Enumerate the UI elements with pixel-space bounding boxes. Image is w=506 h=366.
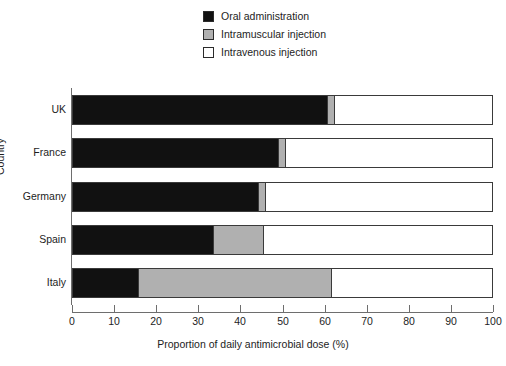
x-tick-mark: [156, 305, 157, 312]
x-tick-label-100: 100: [484, 315, 502, 327]
x-tick-mark: [493, 305, 494, 312]
x-tick-mark: [114, 305, 115, 312]
x-tick-mark: [325, 305, 326, 312]
bar-row: [72, 268, 493, 298]
x-tick-label-10: 10: [108, 315, 120, 327]
x-tick-label-70: 70: [361, 315, 373, 327]
x-axis-title: Proportion of daily antimicrobial dose (…: [0, 338, 506, 350]
x-tick-label-50: 50: [277, 315, 289, 327]
x-tick-label-60: 60: [319, 315, 331, 327]
y-tick-label-france: France: [0, 146, 66, 158]
y-tick-label-uk: UK: [0, 103, 66, 115]
bar-segment: [331, 269, 492, 297]
bar-segment: [73, 183, 258, 211]
bar-segment: [278, 139, 285, 167]
bar-row: [72, 225, 493, 255]
x-tick-label-30: 30: [192, 315, 204, 327]
x-tick-mark: [72, 305, 73, 312]
bar-segment: [263, 226, 492, 254]
legend-label-intravenous-injection: Intravenous injection: [221, 47, 317, 58]
y-tick-label-germany: Germany: [0, 190, 66, 202]
legend-label-oral-administration: Oral administration: [221, 11, 309, 22]
y-tick-label-italy: Italy: [0, 276, 66, 288]
x-tick-label-90: 90: [445, 315, 457, 327]
bar-segment: [73, 269, 138, 297]
x-tick-mark: [240, 305, 241, 312]
bar-segment: [73, 226, 213, 254]
x-tick-mark: [451, 305, 452, 312]
x-tick-mark: [367, 305, 368, 312]
bar-segment: [334, 96, 492, 124]
legend-item-intravenous-injection: Intravenous injection: [203, 44, 503, 60]
x-axis-line: [72, 312, 493, 313]
bar-segment: [327, 96, 334, 124]
chart-legend: Oral administration Intramuscular inject…: [203, 8, 503, 62]
x-tick-label-40: 40: [234, 315, 246, 327]
x-tick-label-80: 80: [403, 315, 415, 327]
bar-row: [72, 95, 493, 125]
x-tick-mark: [409, 305, 410, 312]
legend-item-oral-administration: Oral administration: [203, 8, 503, 24]
bar-segment: [258, 183, 265, 211]
bar-row: [72, 182, 493, 212]
bar-segment: [213, 226, 263, 254]
bar-row: [72, 138, 493, 168]
legend-swatch-intravenous-injection: [203, 47, 214, 58]
x-tick-mark: [283, 305, 284, 312]
bar-segment: [138, 269, 331, 297]
bar-segment: [73, 139, 278, 167]
x-tick-label-0: 0: [69, 315, 75, 327]
x-tick-mark: [198, 305, 199, 312]
legend-swatch-oral-administration: [203, 11, 214, 22]
x-tick-label-20: 20: [150, 315, 162, 327]
legend-label-intramuscular-injection: Intramuscular injection: [221, 29, 326, 40]
y-tick-label-spain: Spain: [0, 233, 66, 245]
plot-area: [72, 88, 493, 305]
legend-item-intramuscular-injection: Intramuscular injection: [203, 26, 503, 42]
bar-segment: [285, 139, 492, 167]
bar-segment: [73, 96, 327, 124]
bar-segment: [265, 183, 492, 211]
legend-swatch-intramuscular-injection: [203, 29, 214, 40]
